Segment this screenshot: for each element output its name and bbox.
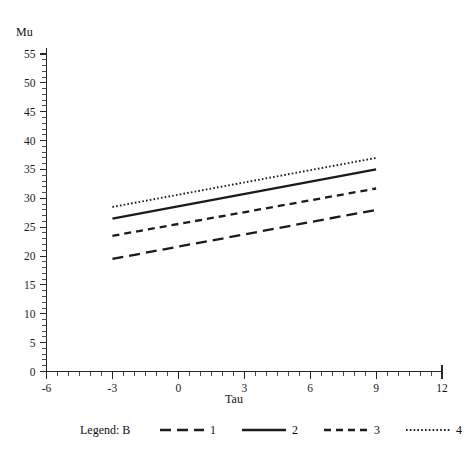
y-tick-label: 55	[24, 48, 36, 60]
legend-title: Legend: B	[80, 423, 130, 437]
legend-entries: 1234	[160, 423, 462, 437]
x-tick-label: 3	[241, 382, 247, 394]
y-axis-ticks	[40, 54, 47, 372]
legend-entry-label-2: 2	[292, 423, 298, 437]
legend-entry-label-4: 4	[456, 423, 462, 437]
x-tick-label: 9	[373, 382, 379, 394]
x-tick-label: -6	[42, 382, 52, 394]
y-tick-label: 20	[24, 250, 36, 262]
y-axis-title: Mu	[16, 25, 33, 39]
x-tick-label: 12	[436, 382, 448, 394]
legend-entry-label-3: 3	[374, 423, 380, 437]
x-tick-label: 6	[307, 382, 313, 394]
legend-entry-label-1: 1	[210, 423, 216, 437]
y-tick-label: 15	[24, 279, 36, 291]
x-tick-label: 0	[175, 382, 181, 394]
chart-figure: Mu Tau 0510152025303540455055 -6-3036912…	[0, 0, 469, 453]
y-tick-label: 5	[30, 337, 36, 349]
y-tick-label: 25	[24, 221, 36, 233]
series-lines	[112, 158, 376, 259]
chart-legend: Legend: B 1234	[80, 423, 462, 437]
y-tick-label: 30	[24, 192, 36, 204]
y-tick-label: 45	[24, 106, 36, 118]
x-axis-title: Tau	[225, 392, 243, 406]
y-tick-label: 40	[24, 135, 36, 147]
series-line-1	[112, 210, 376, 259]
line-chart-canvas: Mu Tau 0510152025303540455055 -6-3036912…	[0, 0, 469, 453]
y-tick-label: 50	[24, 77, 36, 89]
y-tick-label: 10	[24, 308, 36, 320]
series-line-4	[112, 158, 376, 207]
y-tick-label: 35	[24, 163, 36, 175]
y-tick-label: 0	[30, 366, 36, 378]
x-tick-label: -3	[108, 382, 118, 394]
x-axis-tick-labels: -6-3036912	[42, 382, 448, 394]
y-axis-tick-labels: 0510152025303540455055	[24, 48, 36, 378]
